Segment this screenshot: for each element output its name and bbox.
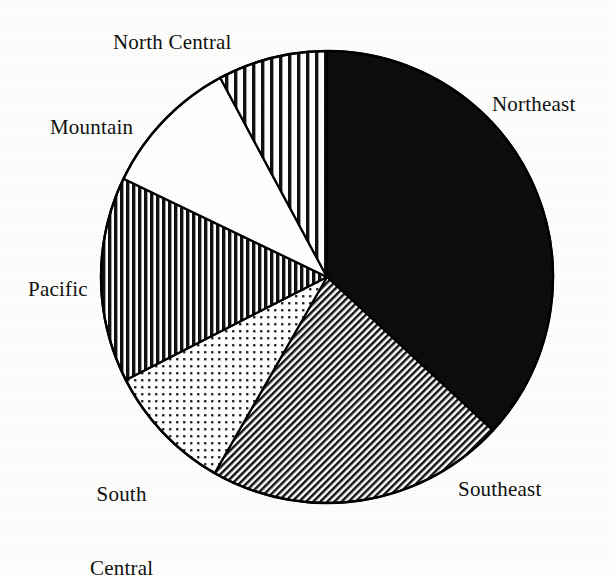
slice-label-south-central-line2: Central [90, 556, 153, 579]
slice-label-pacific: Pacific [28, 277, 88, 302]
slice-label-south-central-line1: South [90, 482, 153, 507]
slice-label-south-central: South Central [90, 432, 153, 579]
slice-label-north-central: North Central [113, 30, 232, 55]
slice-label-northeast: Northeast [492, 92, 575, 117]
pie-slices-group [101, 51, 553, 503]
slice-label-southeast: Southeast [458, 477, 541, 502]
slice-label-mountain: Mountain [50, 115, 133, 140]
